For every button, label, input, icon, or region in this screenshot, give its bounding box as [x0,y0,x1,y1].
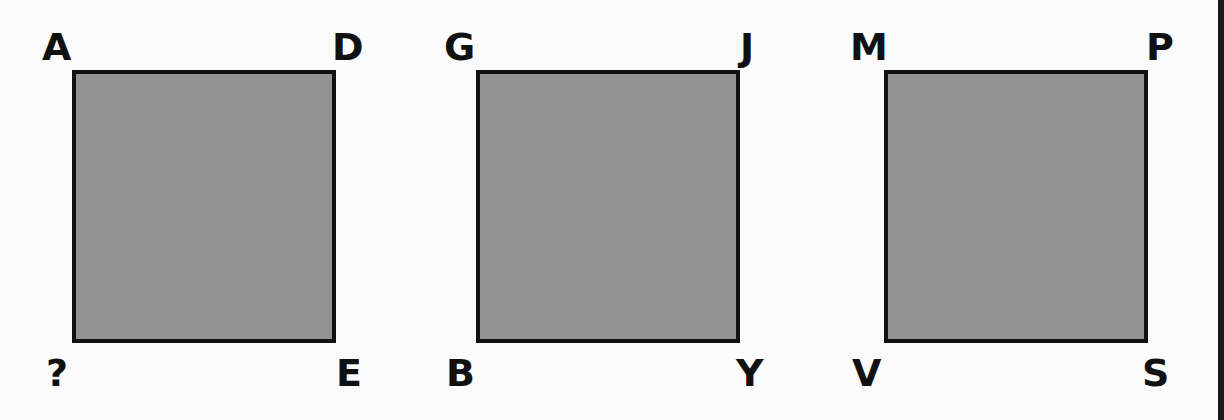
square-2 [476,70,740,343]
square-1-bottom-left-label: ? [46,354,68,392]
square-2-bottom-left-label: B [446,354,475,392]
square-3-bottom-left-label: V [852,354,881,392]
square-3-top-left-label: M [850,28,888,66]
right-border [1218,0,1224,420]
square-1-top-left-label: A [42,28,71,66]
square-3 [884,70,1148,343]
square-2-top-left-label: G [444,28,475,66]
square-3-top-right-label: P [1146,28,1174,66]
square-1-top-right-label: D [332,28,364,66]
square-1-bottom-right-label: E [336,354,362,392]
square-3-bottom-right-label: S [1142,354,1169,392]
square-2-bottom-right-label: Y [736,354,764,392]
square-2-top-right-label: J [740,28,754,66]
square-1 [72,70,336,343]
letter-square-puzzle: A D ? E G J B Y M P V S [0,0,1224,420]
